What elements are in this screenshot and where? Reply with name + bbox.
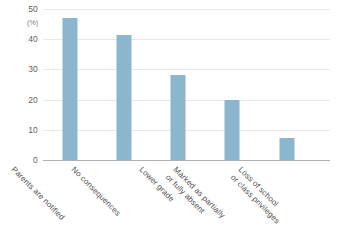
bar-marked-as-partially-or-fully-absent: [225, 100, 240, 160]
x-label-parents-are-notified: Parents are notified: [9, 165, 67, 223]
y-tick-label-30: 30: [8, 65, 38, 74]
y-tick-label-20: 20: [8, 96, 38, 105]
plot-area: [43, 9, 330, 160]
gridline-40: [43, 39, 330, 40]
bar-lower-grade: [171, 75, 186, 160]
bar-loss-of-school-or-class-privileges: [280, 138, 295, 160]
gridline-10: [43, 130, 330, 131]
bar-chart: 50 (%) 40 30 20 10 0 Parents are notifie…: [0, 0, 346, 236]
y-tick-label-50: 50: [8, 5, 38, 14]
x-label-loss-of-school-or-class-privileges: Loss of school or class privileges: [228, 165, 289, 226]
gridline-50: [43, 9, 330, 10]
y-tick-label-40: 40: [8, 35, 38, 44]
x-axis-labels: Parents are notified No consequences Low…: [0, 161, 346, 236]
x-label-line-1: No consequences: [69, 165, 123, 219]
x-label-line-1: Parents are notified: [9, 165, 67, 223]
y-tick-label-10: 10: [8, 126, 38, 135]
gridline-20: [43, 100, 330, 101]
y-axis-unit-label: (%): [8, 19, 38, 27]
bar-no-consequences: [117, 35, 132, 160]
x-label-no-consequences: No consequences: [69, 165, 123, 219]
bar-parents-are-notified: [63, 18, 78, 160]
gridline-30: [43, 69, 330, 70]
